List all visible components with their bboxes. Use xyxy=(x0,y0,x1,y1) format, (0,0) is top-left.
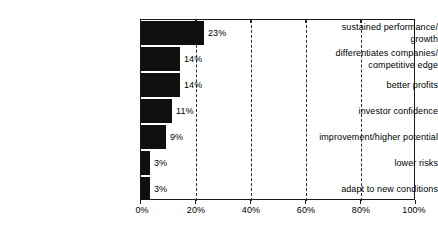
bar-row: sustained performance/ growth 23% xyxy=(0,21,438,47)
x-axis-label-40: 40% xyxy=(242,205,260,216)
category-label: improvement/higher potential xyxy=(304,132,438,144)
x-axis-label-60: 60% xyxy=(297,205,315,216)
category-label: better profits xyxy=(304,80,438,92)
bar-value-label: 23% xyxy=(208,28,226,39)
category-label: sustained performance/ growth xyxy=(304,22,438,45)
bar-value-label: 3% xyxy=(154,184,167,195)
category-label-line1: lower risks xyxy=(394,158,438,168)
bar xyxy=(141,73,180,97)
category-label-line1: differentiates companies/ xyxy=(336,48,438,58)
category-label-line1: adapt to new conditions xyxy=(341,184,438,194)
category-label-line1: improvement/higher potential xyxy=(319,132,438,142)
category-label-line1: sustained performance/ xyxy=(342,22,438,32)
category-label: investor confidence xyxy=(304,106,438,118)
horizontal-bar-chart: 0% 20% 40% 60% 80% 100% sustained perfor… xyxy=(0,0,438,235)
category-label-line2: competitive edge xyxy=(368,60,438,70)
bar xyxy=(141,125,166,149)
bar-value-label: 11% xyxy=(176,106,194,117)
bar-value-label: 9% xyxy=(170,132,183,143)
bar-row: improvement/higher potential 9% xyxy=(0,125,438,151)
category-label: differentiates companies/ competitive ed… xyxy=(304,48,438,71)
bar-row: better profits 14% xyxy=(0,73,438,99)
x-axis-label-80: 80% xyxy=(352,205,370,216)
category-label: adapt to new conditions xyxy=(304,184,438,196)
x-axis-label-20: 20% xyxy=(187,205,205,216)
category-label: lower risks xyxy=(304,158,438,170)
category-label-line1: better profits xyxy=(387,80,438,90)
bar-row: lower risks 3% xyxy=(0,151,438,177)
bar xyxy=(141,99,172,123)
bar-row: investor confidence 11% xyxy=(0,99,438,125)
bar-value-label: 3% xyxy=(154,158,167,169)
x-axis-label-0: 0% xyxy=(135,205,148,216)
bar-value-label: 14% xyxy=(184,54,202,65)
bar xyxy=(141,47,180,71)
bar-row: adapt to new conditions 3% xyxy=(0,177,438,203)
bar-row: differentiates companies/ competitive ed… xyxy=(0,47,438,73)
bar-value-label: 14% xyxy=(184,80,202,91)
x-axis-label-100: 100% xyxy=(402,205,425,216)
bar xyxy=(141,21,204,45)
category-label-line2: growth xyxy=(410,34,438,44)
category-label-line1: investor confidence xyxy=(359,106,438,116)
bar xyxy=(141,177,150,200)
bar xyxy=(141,151,150,175)
